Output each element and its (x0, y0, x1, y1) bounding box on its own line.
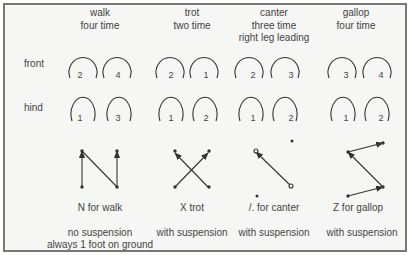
gallop-pattern-label: Z for gallop (333, 202, 383, 214)
trot-x-pattern (175, 153, 208, 187)
walk-pattern-label: N for walk (78, 202, 122, 214)
walk-front-left-num: 2 (77, 70, 82, 80)
gait-diagram-graphics (0, 0, 409, 255)
walk-ground-note: always 1 foot on ground (47, 239, 153, 251)
canter-front-right-num: 3 (288, 70, 293, 80)
gallop-suspension-note: with suspension (326, 227, 397, 239)
trot-suspension-note: with suspension (156, 227, 227, 239)
trot-hind-left-num: 1 (168, 113, 173, 123)
trot-hind-right-num: 2 (203, 113, 208, 123)
walk-suspension-note: no suspension (68, 227, 133, 239)
walk-hind-left-num: 1 (77, 113, 82, 123)
canter-pattern-label: /. for canter (249, 202, 300, 214)
walk-hind-right-num: 3 (115, 113, 120, 123)
canter-hind-right-num: 2 (288, 113, 293, 123)
gallop-front-right-num: 4 (378, 70, 383, 80)
trot-front-right-num: 1 (203, 70, 208, 80)
gallop-front-left-num: 3 (343, 70, 348, 80)
walk-front-right-num: 4 (115, 70, 120, 80)
canter-pattern (254, 149, 293, 188)
canter-hind-left-num: 1 (250, 113, 255, 123)
walk-n-pattern (82, 151, 117, 187)
gallop-z-pattern (348, 143, 383, 196)
foot-dots (80, 140, 384, 198)
canter-front-left-num: 2 (250, 70, 255, 80)
trot-pattern-label: X trot (180, 202, 204, 214)
gallop-hind-right-num: 2 (378, 113, 383, 123)
gallop-hind-left-num: 1 (343, 113, 348, 123)
canter-suspension-note: with suspension (238, 227, 309, 239)
trot-front-left-num: 2 (168, 70, 173, 80)
